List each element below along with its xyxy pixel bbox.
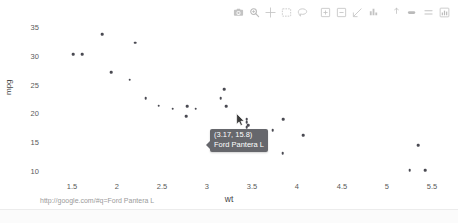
scatter-point[interactable]	[145, 97, 148, 100]
scatter-point[interactable]	[172, 107, 175, 110]
scatter-point[interactable]	[225, 105, 228, 108]
scatter-point[interactable]	[219, 97, 222, 100]
status-bar-url: http://google.com/#q=Ford Pantera L	[40, 197, 154, 204]
scatter-point[interactable]	[281, 152, 284, 155]
scatter-point[interactable]	[81, 53, 84, 56]
scatter-point[interactable]	[408, 169, 411, 172]
scatter-point[interactable]	[186, 105, 189, 108]
scatter-point[interactable]	[282, 118, 285, 121]
tooltip-coords: (3.17, 15.8)	[214, 130, 264, 140]
tooltip-arrow-icon	[206, 141, 210, 149]
scatter-point[interactable]	[110, 71, 113, 74]
scatter-point[interactable]	[194, 107, 197, 110]
plot-container[interactable]: mpg wt 353025201510 1.522.533.544.555.5 …	[0, 0, 458, 210]
browser-status-bar: http://google.com/#q=Ford Pantera L	[0, 209, 458, 223]
scatter-points-layer[interactable]	[0, 0, 458, 210]
scatter-point[interactable]	[185, 115, 188, 118]
tooltip-label: Ford Pantera L	[214, 140, 264, 150]
scatter-point[interactable]	[134, 42, 137, 45]
hover-tooltip: (3.17, 15.8) Ford Pantera L	[210, 129, 268, 152]
scatter-point[interactable]	[128, 78, 131, 81]
scatter-point[interactable]	[424, 169, 427, 172]
scatter-point[interactable]	[302, 134, 305, 137]
scatter-point[interactable]	[101, 33, 104, 36]
scatter-point[interactable]	[271, 129, 274, 132]
scatter-point[interactable]	[158, 104, 161, 107]
scatter-point[interactable]	[72, 53, 75, 56]
scatter-point[interactable]	[245, 121, 248, 124]
scatter-point[interactable]	[417, 144, 420, 147]
scatter-point[interactable]	[223, 88, 226, 91]
scatter-point[interactable]	[247, 124, 250, 127]
